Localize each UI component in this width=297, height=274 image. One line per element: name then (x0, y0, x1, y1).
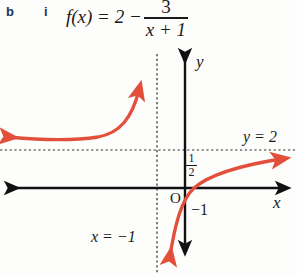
question-part-label: b (6, 4, 14, 19)
worked-solution-figure: b i f(x) = 2 − 3 x + 1 (0, 0, 297, 274)
question-subpart-label: i (44, 4, 48, 19)
fraction-numerator: 3 (156, 0, 176, 16)
y-intercept-label: −1 (191, 201, 208, 219)
function-expression-prefix: f(x) = 2 − (66, 6, 142, 28)
fraction-denominator: x + 1 (144, 20, 188, 40)
x-intercept-numerator: 1 (189, 152, 195, 164)
fraction: 3 x + 1 (144, 0, 188, 40)
horizontal-asymptote-label: y = 2 (243, 128, 277, 146)
curve-left-branch (9, 90, 139, 140)
graph-canvas (0, 40, 297, 274)
vertical-asymptote-label: x = −1 (91, 228, 136, 246)
graph-svg (0, 40, 297, 274)
y-axis-label: y (196, 52, 204, 72)
origin-label: O (170, 190, 181, 207)
function-expression: f(x) = 2 − 3 x + 1 (66, 0, 190, 38)
x-intercept-denominator: 2 (189, 166, 195, 178)
x-intercept-label: 1 2 (186, 152, 197, 178)
x-axis-label: x (273, 193, 281, 213)
